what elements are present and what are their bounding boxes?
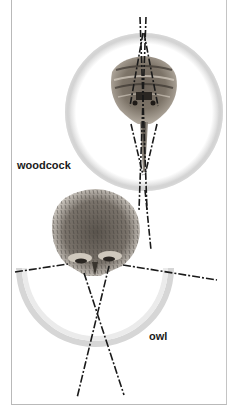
- owl-head: [52, 189, 140, 276]
- woodcock-label: woodcock: [17, 159, 71, 171]
- vision-diagram: [0, 0, 232, 417]
- owl-label: owl: [149, 330, 167, 342]
- owl-sightlines: [15, 264, 217, 398]
